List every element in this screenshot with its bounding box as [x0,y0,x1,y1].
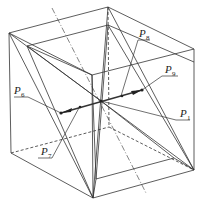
arrow-head-left-icon [61,108,72,113]
svg-text:9: 9 [172,70,176,78]
center-point [99,99,102,102]
hidden-edges [11,7,194,170]
inner-box [27,25,194,198]
cube-diagram: P 8 P 9 P 6 P 1 P 7 [0,0,198,207]
svg-text:7: 7 [48,152,52,160]
svg-text:P: P [40,145,48,157]
svg-text:P: P [179,107,187,119]
svg-text:6: 6 [21,91,25,99]
point-P9 [140,88,143,91]
svg-text:P: P [138,27,146,39]
svg-text:8: 8 [146,34,150,42]
point-P7 [79,106,82,109]
svg-text:1: 1 [187,114,191,122]
svg-text:P: P [164,63,172,75]
svg-text:P: P [13,84,21,96]
point-P6 [59,111,62,114]
point-P8 [121,95,124,98]
arrow-head-right-icon [131,90,142,95]
